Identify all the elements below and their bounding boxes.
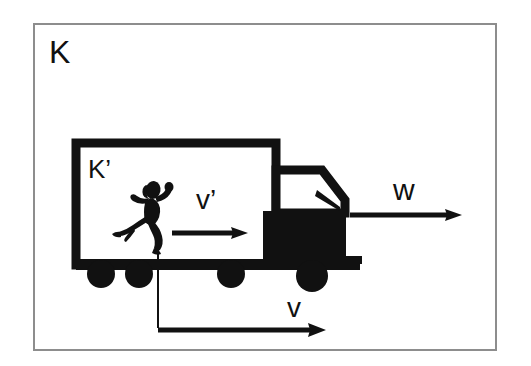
truck-wheel-1: [87, 260, 115, 288]
truck-cab-body: [276, 211, 346, 267]
physics-diagram-figure: K K’: [0, 0, 531, 366]
runner-velocity-label: v’: [196, 184, 216, 215]
truck-wheel-2: [125, 260, 153, 288]
truck-wheel-3: [217, 260, 245, 288]
truck-box-rear-solid: [263, 211, 283, 267]
truck-velocity-label: v: [287, 292, 301, 323]
truck-bumper: [344, 256, 362, 264]
inner-frame-label-K-prime: K’: [88, 154, 111, 184]
diagram-canvas: K K’: [0, 0, 531, 366]
runner-front-fist: [165, 182, 174, 192]
total-velocity-label: w: [392, 173, 415, 206]
truck-wheel-4: [296, 260, 328, 292]
outer-frame-label-K: K: [49, 34, 70, 70]
